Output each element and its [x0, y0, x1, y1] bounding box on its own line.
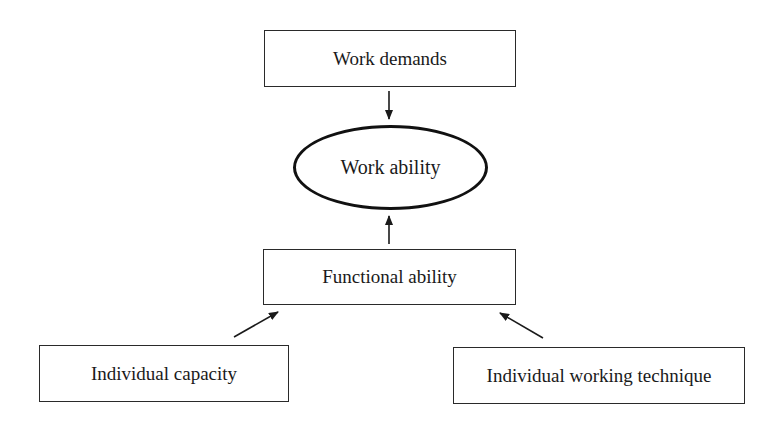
arrows-layer	[0, 0, 784, 426]
arrow-working-technique-to-functional-ability	[500, 313, 543, 338]
arrow-individual-capacity-to-functional-ability	[234, 312, 278, 337]
